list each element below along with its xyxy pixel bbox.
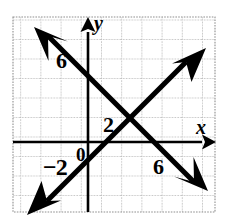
graph-figure: 6 2 0 −2 6 x y [0, 0, 227, 222]
x-tick-label-6: 6 [153, 156, 164, 178]
y-tick-label-2: 2 [103, 114, 114, 136]
y-tick-label-negative-2: −2 [43, 155, 67, 179]
plot-canvas [0, 0, 227, 222]
x-axis-label: x [196, 117, 206, 137]
y-axis-label: y [94, 13, 103, 33]
origin-label-0: 0 [76, 145, 86, 164]
y-tick-label-6: 6 [56, 50, 67, 72]
